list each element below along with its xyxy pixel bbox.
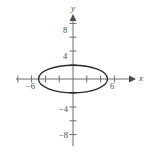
- y-tick-label-neg8: −8: [59, 131, 68, 140]
- x-axis-arrow-icon: [129, 76, 136, 83]
- y-tick-label-8: 8: [63, 26, 67, 35]
- y-tick-label-4: 4: [63, 52, 67, 61]
- x-axis-label: x: [139, 74, 143, 83]
- x-tick-label-6: 6: [110, 82, 114, 91]
- x-tick-label-neg6: −6: [26, 82, 35, 91]
- graph-figure: y x −6 6 8 4 −4 −8: [0, 0, 151, 151]
- y-axis-label: y: [71, 4, 75, 13]
- y-axis-arrow-icon: [70, 14, 77, 21]
- coordinate-plane-svg: [0, 0, 151, 151]
- y-tick-label-neg4: −4: [59, 105, 68, 114]
